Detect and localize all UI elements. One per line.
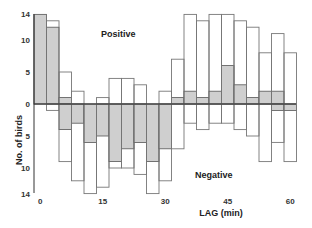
bar-positive-shaded [34,14,47,104]
positive-label: Positive [101,29,136,39]
y-tick: 10 [21,36,30,45]
bar-positive-total [109,78,122,104]
bar-negative-total [184,104,197,123]
bar-negative-shaded [109,104,122,162]
bar-negative-total [247,104,260,136]
x-tick: 45 [223,197,232,206]
y-tick: 14 [21,190,30,199]
negative-label: Negative [195,170,233,180]
bar-positive-shaded [172,98,185,104]
bar-positive-total [134,85,147,104]
bar-positive-shaded [59,98,72,104]
bar-positive-total [159,91,172,104]
bar-negative-shaded [84,104,97,142]
x-tick: 15 [98,197,107,206]
bar-chart: 05101451014 015304560 Positive Negative … [0,0,312,228]
bar-positive-shaded [259,91,272,104]
bar-negative-total [259,104,272,162]
bar-positive-shaded [247,98,260,104]
y-axis-label: No. of birds [14,115,24,165]
bar-positive-total [97,98,110,104]
bar-negative-shaded [134,104,147,142]
bar-negative-shaded [147,104,160,162]
x-tick: 30 [161,197,170,206]
x-tick-labels: 015304560 [38,197,295,206]
bar-negative-total [234,104,247,130]
bar-positive-shaded [209,91,222,104]
x-axis-label: LAG (min) [199,208,243,218]
bar-negative-total [222,104,235,123]
x-tick: 0 [38,197,43,206]
bar-negative-total [197,104,210,130]
bar-positive-total [184,14,197,104]
y-tick: 5 [26,132,31,141]
bar-negative-shaded [122,104,135,149]
bar-positive-total [197,21,210,104]
bar-positive-total [209,14,222,104]
x-tick: 60 [286,197,295,206]
y-tick: 14 [21,10,30,19]
bar-negative-shaded [159,104,172,149]
bar-negative-shaded [97,104,110,136]
bar-positive-shaded [47,27,60,104]
bar-negative-total [209,104,222,123]
bar-positive-shaded [272,91,285,104]
bar-negative-total [47,104,60,110]
bar-positive-shaded [184,91,197,104]
bar-positive-shaded [222,66,235,104]
bar-negative-total [284,104,297,162]
bar-positive-total [72,91,85,104]
bar-negative-total [172,104,185,149]
bar-negative-shaded [59,104,72,130]
bar-positive-shaded [197,98,210,104]
bar-negative-shaded [284,104,297,110]
bar-negative-shaded [72,104,85,123]
bar-positive-total [284,53,297,104]
bar-positive-total [122,78,135,104]
bar-negative-shaded [272,104,285,110]
y-tick-labels: 05101451014 [21,10,30,198]
y-tick: 5 [26,68,31,77]
bar-positive-total [247,27,260,104]
bar-positive-shaded [234,85,247,104]
y-tick: 0 [26,100,31,109]
